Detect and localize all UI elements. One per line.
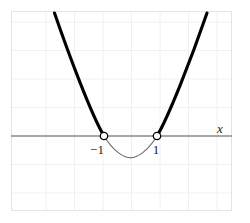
x-axis-label: x: [216, 121, 223, 136]
parabola-figure: −1 1 x: [0, 0, 250, 223]
left-root-label: −1: [90, 142, 104, 157]
left-root-open-circle-marker: [100, 132, 107, 139]
right-root-open-circle-marker: [153, 132, 160, 139]
right-root-label: 1: [153, 142, 160, 157]
plot-canvas: −1 1 x: [0, 0, 250, 223]
figure-background: [0, 0, 250, 223]
